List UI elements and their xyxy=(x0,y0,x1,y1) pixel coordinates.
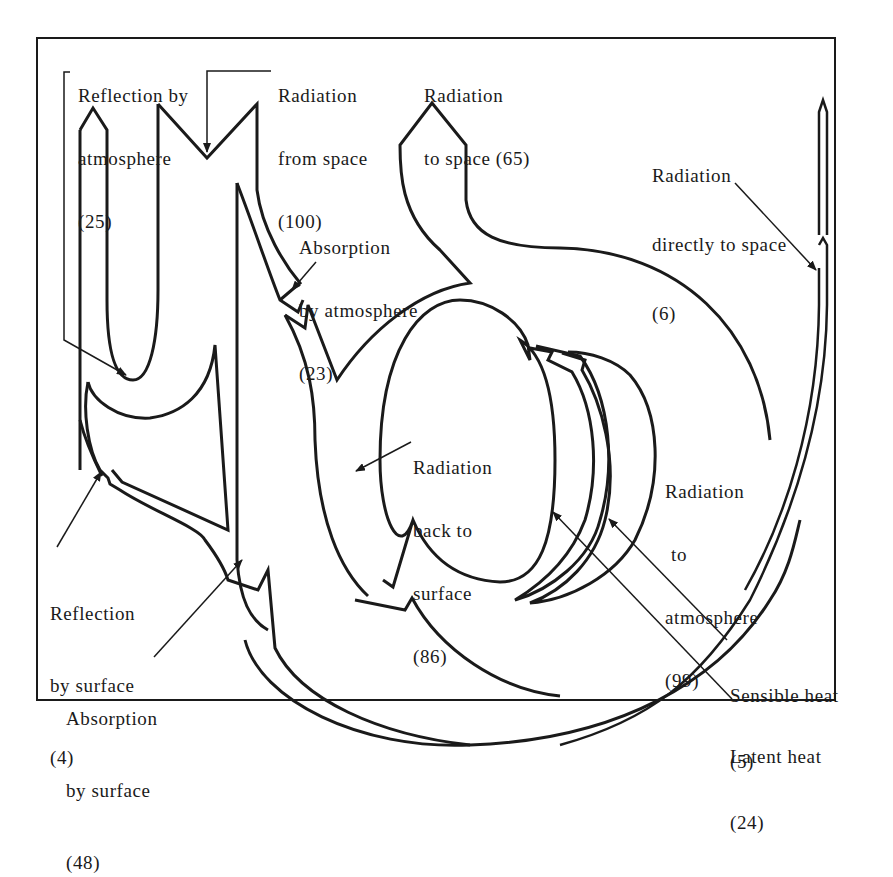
label-line: Radiation xyxy=(424,85,530,106)
label-line: Reflection xyxy=(50,602,135,626)
label-latent-heat: Latent heat (24) xyxy=(730,702,822,856)
label-line: directly to space xyxy=(652,233,787,256)
label-line: Absorption xyxy=(66,707,158,731)
label-line: Absorption xyxy=(299,237,418,258)
label-radiation-directly-to-space: Radiation directly to space (6) xyxy=(652,118,787,348)
label-line: to xyxy=(665,544,759,565)
label-line: atmosphere xyxy=(665,607,759,628)
label-line: Radiation xyxy=(413,457,492,478)
label-line: Reflection by xyxy=(78,85,189,106)
label-line: surface xyxy=(413,583,492,604)
label-line: by surface xyxy=(66,779,158,803)
label-value: (86) xyxy=(413,646,492,667)
label-value: (48) xyxy=(66,851,158,875)
label-absorption-by-surface: Absorption by surface (48) xyxy=(66,659,158,877)
label-line: back to xyxy=(413,520,492,541)
label-radiation-back-to-surface: Radiation back to surface (86) xyxy=(413,415,492,688)
label-line: from space xyxy=(278,148,368,169)
label-line: atmosphere xyxy=(78,148,189,169)
label-value: (23) xyxy=(299,363,418,384)
label-line: Radiation xyxy=(665,481,759,502)
label-absorption-by-atmosphere: Absorption by atmosphere (23) xyxy=(299,195,418,405)
label-line: Radiation xyxy=(278,85,368,106)
label-radiation-to-space: Radiation to space (65) xyxy=(424,43,530,190)
latent-heat-flow xyxy=(515,346,609,600)
label-value: (6) xyxy=(652,302,787,325)
label-line: by atmosphere xyxy=(299,300,418,321)
label-line: to space (65) xyxy=(424,148,530,169)
label-reflection-by-atmosphere: Reflection by atmosphere (25) xyxy=(78,43,189,253)
label-line: Latent heat xyxy=(730,746,822,768)
label-line: Radiation xyxy=(652,164,787,187)
label-value: (25) xyxy=(78,211,189,232)
label-value: (24) xyxy=(730,812,822,834)
